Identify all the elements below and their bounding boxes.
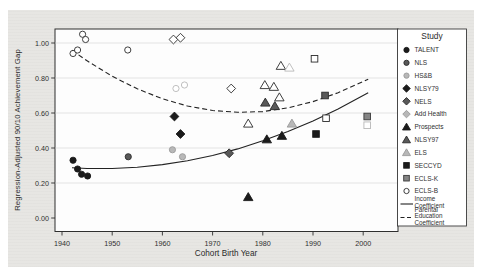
point-talent-income <box>74 166 80 172</box>
legend-label-talent: TALENT <box>415 46 439 53</box>
point-eclsk-income <box>322 92 329 99</box>
legend-label-seccyd: SECCYD <box>415 162 442 169</box>
point-seccyd-parental-education <box>311 55 318 62</box>
point-hsb-income <box>169 147 175 153</box>
point-talent-income <box>85 173 91 179</box>
legend-marker-hsb <box>404 73 409 78</box>
point-talent-income <box>70 157 76 163</box>
point-seccyd-income <box>313 131 320 138</box>
legend-label-prospects: Prospects <box>415 123 445 131</box>
legend-marker-nls <box>404 60 409 65</box>
point-eclsk-parental-education <box>323 115 330 122</box>
point-talent-parental-education <box>74 47 80 53</box>
scatter-plot: 19401950196019701980199020000.000.200.40… <box>0 0 482 277</box>
y-tick-label-0.40: 0.40 <box>35 144 49 153</box>
legend-marker-seccyd <box>404 163 410 169</box>
legend-label-nlsy97: NLSY97 <box>415 136 440 143</box>
point-eclsb-parental-education <box>364 122 371 129</box>
legend-label-eclsb: ECLS-B <box>415 187 438 194</box>
figure-page: 19401950196019701980199020000.000.200.40… <box>0 0 482 277</box>
x-axis-title: Cohort Birth Year <box>195 249 257 258</box>
x-tick-label-1950: 1950 <box>104 239 120 248</box>
legend-marker-eclsb <box>404 188 409 193</box>
point-nls-parental-education <box>125 47 131 53</box>
legend-line-label-dashed-2: Coefficient <box>415 219 445 226</box>
x-tick-label-1960: 1960 <box>154 239 170 248</box>
legend-label-nels: NELS <box>415 98 433 105</box>
y-tick-label-0.00: 0.00 <box>35 214 49 223</box>
legend-label-nlsy79: NLSY79 <box>415 85 440 92</box>
plot-panel <box>55 29 398 232</box>
x-tick-label-1990: 1990 <box>305 239 321 248</box>
legend-label-els: ELS <box>415 149 428 156</box>
legend-label-nls: NLS <box>415 59 428 66</box>
y-tick-label-0.80: 0.80 <box>35 74 49 83</box>
y-axis-title: Regression-Adjusted 90/10 Achievement Ga… <box>13 49 22 211</box>
point-talent-income <box>78 171 84 177</box>
legend-label-addhealth: Add Health <box>415 110 448 117</box>
point-hsb-parental-education <box>181 82 187 88</box>
legend-title: Study <box>421 31 442 41</box>
legend-marker-talent <box>404 47 409 52</box>
legend-label-eclsk: ECLS-K <box>415 175 439 182</box>
x-tick-label-1970: 1970 <box>205 239 221 248</box>
point-hsb-parental-education <box>173 85 179 91</box>
legend-label-hsb: HS&B <box>415 72 433 79</box>
legend-marker-eclsk <box>404 175 410 181</box>
x-tick-label-1980: 1980 <box>255 239 271 248</box>
x-tick-label-2000: 2000 <box>355 239 371 248</box>
y-tick-label-0.20: 0.20 <box>35 179 49 188</box>
point-eclsb-income <box>364 113 371 120</box>
point-hsb-income <box>179 154 185 160</box>
point-talent-parental-education <box>82 36 88 42</box>
x-tick-label-1940: 1940 <box>54 239 70 248</box>
y-tick-label-1.00: 1.00 <box>35 39 49 48</box>
y-tick-label-0.60: 0.60 <box>35 109 49 118</box>
point-nls-income <box>125 154 131 160</box>
